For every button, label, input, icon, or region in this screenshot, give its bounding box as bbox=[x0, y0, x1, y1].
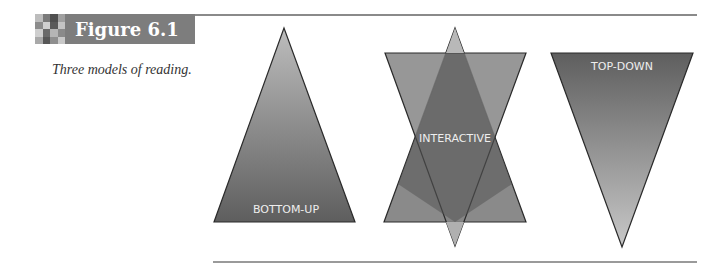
top-down-model: TOP-DOWN bbox=[551, 53, 693, 247]
reading-models-diagram: BOTTOM-UP INTERACTIVE TOP-DOWN bbox=[0, 0, 724, 265]
top-down-label: TOP-DOWN bbox=[590, 60, 653, 73]
interactive-model: INTERACTIVE bbox=[384, 28, 526, 246]
bottom-up-model: BOTTOM-UP bbox=[214, 28, 355, 222]
bottom-up-label: BOTTOM-UP bbox=[253, 203, 319, 216]
interactive-label: INTERACTIVE bbox=[419, 132, 491, 145]
